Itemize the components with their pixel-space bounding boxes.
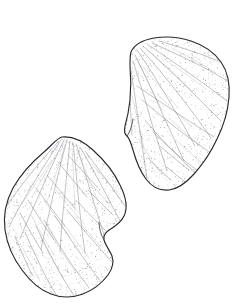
stipple-dot [35, 194, 36, 195]
stipple-dot [45, 286, 46, 287]
stipple-dot [211, 105, 212, 106]
stipple-dot [212, 85, 213, 86]
stipple-dot [92, 200, 93, 201]
stipple-dot [210, 111, 211, 112]
stipple-dot [95, 212, 96, 213]
stipple-dot [65, 294, 66, 295]
stipple-dot [66, 287, 67, 288]
stipple-dot [9, 206, 10, 207]
stipple-dot [31, 196, 32, 197]
stipple-dot [84, 226, 85, 227]
stipple-dot [19, 219, 20, 220]
stipple-dot [27, 202, 28, 203]
stipple-dot [78, 281, 79, 282]
stipple-dot [136, 122, 137, 123]
stipple-dot [96, 250, 97, 251]
stipple-dot [21, 196, 22, 197]
stipple-dot [218, 59, 219, 60]
stipple-dot [56, 184, 57, 185]
stipple-dot [191, 171, 192, 172]
stipple-dot [106, 267, 107, 268]
stipple-dot [60, 284, 61, 285]
stipple-dot [32, 182, 33, 183]
stipple-dot [202, 148, 203, 149]
stipple-dot [55, 254, 56, 255]
stipple-dot [65, 141, 66, 142]
stipple-dot [120, 188, 121, 189]
stipple-dot [145, 129, 146, 130]
stipple-dot [37, 166, 38, 167]
stipple-dot [188, 129, 189, 130]
stipple-dot [64, 161, 65, 162]
stipple-dot [210, 138, 211, 139]
stipple-dot [207, 152, 208, 153]
stipple-dot [55, 289, 56, 290]
stipple-dot [159, 94, 160, 95]
stipple-dot [155, 126, 156, 127]
stipple-dot [26, 265, 27, 266]
stipple-dot [163, 106, 164, 107]
stipple-dot [5, 216, 6, 217]
stipple-dot [167, 153, 168, 154]
stipple-dot [19, 194, 20, 195]
stipple-dot [146, 132, 147, 133]
stipple-dot [23, 265, 24, 266]
stipple-dot [94, 205, 95, 206]
stipple-dot [204, 59, 205, 60]
stipple-dot [97, 281, 98, 282]
stipple-dot [158, 177, 159, 178]
stipple-dot [137, 151, 138, 152]
stipple-dot [197, 109, 198, 110]
stipple-dot [148, 154, 149, 155]
stipple-dot [171, 81, 172, 82]
stipple-dot [167, 169, 168, 170]
stipple-dot [198, 135, 199, 136]
stipple-dot [187, 98, 188, 99]
stipple-dot [221, 125, 222, 126]
stipple-dot [133, 77, 134, 78]
stipple-dot [16, 237, 17, 238]
stipple-dot [78, 211, 79, 212]
stipple-dot [167, 168, 168, 169]
stipple-dot [71, 273, 72, 274]
stipple-dot [82, 268, 83, 269]
stipple-dot [141, 116, 142, 117]
stipple-dot [86, 268, 87, 269]
stipple-dot [110, 190, 111, 191]
stipple-dot [152, 50, 153, 51]
stipple-dot [168, 46, 169, 47]
stipple-dot [204, 144, 205, 145]
stipple-dot [75, 276, 76, 277]
stipple-dot [62, 143, 63, 144]
stipple-dot [68, 185, 69, 186]
stipple-dot [158, 149, 159, 150]
stipple-dot [47, 285, 48, 286]
stipple-dot [169, 114, 170, 115]
stipple-dot [173, 39, 174, 40]
stipple-dot [85, 255, 86, 256]
stipple-dot [202, 105, 203, 106]
stipple-dot [151, 158, 152, 159]
stipple-dot [61, 278, 62, 279]
stipple-dot [194, 88, 195, 89]
stipple-dot [43, 180, 44, 181]
stipple-dot [11, 240, 12, 241]
stipple-dot [179, 44, 180, 45]
stipple-dot [5, 230, 6, 231]
stipple-dot [108, 195, 109, 196]
stipple-dot [220, 100, 221, 101]
stipple-dot [69, 239, 70, 240]
stipple-dot [111, 255, 112, 256]
stipple-dot [43, 280, 44, 281]
stipple-dot [163, 61, 164, 62]
stipple-dot [193, 169, 194, 170]
stipple-dot [143, 55, 144, 56]
stipple-dot [91, 187, 92, 188]
stipple-dot [90, 261, 91, 262]
stipple-dot [119, 204, 120, 205]
stipple-dot [15, 188, 16, 189]
stipple-dot [39, 204, 40, 205]
stipple-dot [159, 129, 160, 130]
stipple-dot [60, 229, 61, 230]
stipple-dot [26, 175, 27, 176]
